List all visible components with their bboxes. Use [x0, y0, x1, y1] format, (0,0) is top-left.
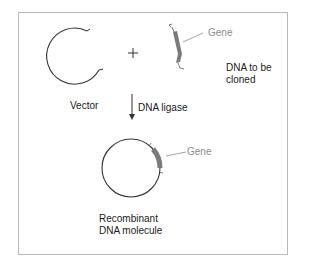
dna-to-be-cloned-label-line1: DNA to be	[226, 62, 272, 74]
dna-ligase-label: DNA ligase	[138, 102, 187, 114]
dna-to-be-cloned-label-line2: cloned	[226, 74, 255, 86]
arrow-down-icon	[129, 94, 135, 120]
recombinant-plasmid-icon	[102, 139, 186, 197]
recombinant-label-line1: Recombinant	[99, 213, 158, 225]
vector-label: Vector	[70, 100, 98, 112]
recombinant-label-line2: DNA molecule	[99, 225, 162, 237]
vector-plasmid-icon	[47, 28, 103, 84]
gene-label-top: Gene	[208, 27, 232, 39]
plus-icon	[128, 48, 138, 58]
gene-label-bottom: Gene	[187, 146, 211, 158]
dna-fragment-icon	[169, 24, 203, 69]
